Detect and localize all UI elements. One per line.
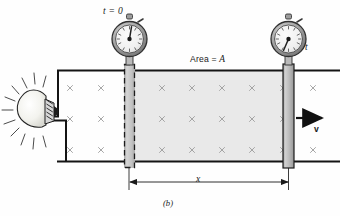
swept-area-region — [129, 71, 284, 161]
distance-dimension-line — [129, 168, 289, 190]
light-bulb — [2, 73, 58, 149]
stopwatch-start — [112, 14, 147, 65]
stopwatch-elapsed — [271, 14, 306, 65]
bulb-glass — [17, 90, 46, 127]
figure-caption: (b) — [163, 198, 173, 208]
label-time-final: t — [305, 42, 308, 52]
label-time-initial: t = 0 — [103, 6, 123, 16]
label-area-symbol: A — [219, 54, 225, 64]
wire-lamp-to-bottom — [50, 121, 66, 162]
label-area-text: Area = — [190, 54, 219, 64]
conducting-bar-initial-position — [124, 64, 135, 168]
conducting-bar-moving — [283, 64, 294, 168]
physics-diagram — [0, 0, 340, 216]
label-velocity: v — [314, 124, 319, 134]
label-area: Area = A — [190, 54, 225, 64]
label-distance: x — [196, 174, 200, 184]
figure-canvas: t = 0 t Area = A x v (b) — [0, 0, 340, 216]
